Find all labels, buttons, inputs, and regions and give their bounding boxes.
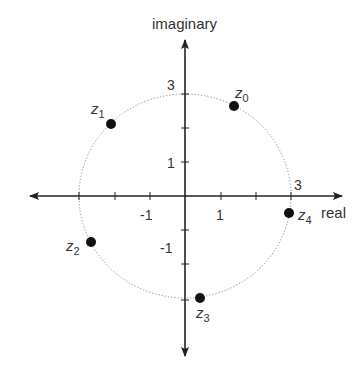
point-z1 (106, 119, 116, 129)
label-z0: z0 (234, 84, 249, 104)
point-z4 (284, 208, 294, 218)
imaginary-axis-label: imaginary (152, 15, 218, 32)
real-axis-label: real (321, 204, 346, 221)
x-tick-label-neg1: -1 (140, 207, 153, 223)
x-tick-label-3: 3 (294, 177, 302, 193)
label-z4: z4 (297, 206, 312, 226)
label-z2: z2 (65, 237, 80, 257)
point-z2 (86, 237, 96, 247)
point-z3 (195, 293, 205, 303)
point-z0 (229, 101, 239, 111)
complex-plane-diagram: -1 1 3 3 1 -1 imaginary real z0 z1 z2 z3… (0, 0, 363, 366)
label-z3: z3 (195, 304, 210, 324)
y-tick-label-1: 1 (167, 155, 175, 171)
y-tick-label-3: 3 (167, 77, 175, 93)
x-tick-label-1: 1 (216, 207, 224, 223)
y-tick-label-neg1: -1 (160, 240, 173, 256)
label-z1: z1 (90, 100, 105, 120)
